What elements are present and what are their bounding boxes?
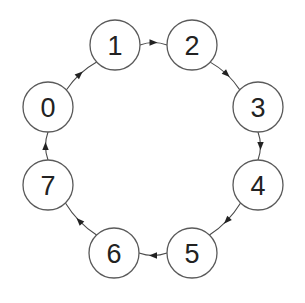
edge-line [66, 62, 96, 90]
edge-5-to-6 [139, 252, 167, 258]
node-label: 1 [107, 31, 122, 61]
node-5: 5 [167, 228, 217, 278]
arrowhead-icon [150, 39, 158, 45]
edge-4-to-5 [209, 203, 240, 235]
node-0: 0 [23, 82, 73, 132]
node-4: 4 [233, 160, 283, 210]
nodes-layer: 01234567 [23, 20, 283, 278]
node-3: 3 [233, 82, 283, 132]
arrowhead-icon [42, 142, 48, 150]
edge-6-to-7 [65, 203, 96, 235]
edge-7-to-0 [42, 132, 48, 160]
node-1: 1 [90, 20, 140, 70]
node-label: 2 [184, 31, 199, 61]
edge-line [209, 203, 240, 235]
arrowhead-icon [149, 252, 157, 258]
node-label: 6 [106, 239, 121, 269]
edge-0-to-1 [66, 62, 96, 90]
node-label: 5 [184, 239, 199, 269]
edge-line [65, 203, 96, 235]
node-6: 6 [89, 228, 139, 278]
edge-3-to-4 [257, 132, 263, 160]
node-2: 2 [167, 20, 217, 70]
edge-line [210, 62, 240, 90]
ring-diagram-svg: 01234567 [0, 0, 305, 303]
ring-diagram: 01234567 [0, 0, 305, 303]
edges-layer [42, 39, 263, 258]
node-label: 0 [40, 93, 55, 123]
node-label: 3 [250, 93, 265, 123]
node-label: 7 [40, 171, 55, 201]
node-7: 7 [23, 160, 73, 210]
edge-1-to-2 [140, 39, 167, 45]
edge-2-to-3 [210, 62, 240, 90]
arrowhead-icon [257, 142, 263, 150]
node-label: 4 [250, 171, 265, 201]
